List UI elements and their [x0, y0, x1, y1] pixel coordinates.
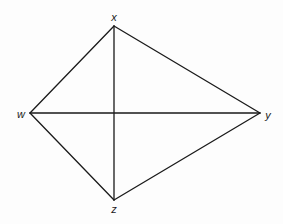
vertex-label-y: y [265, 110, 271, 121]
vertex-label-x: x [111, 12, 117, 23]
side-xy [114, 26, 260, 113]
diagram-canvas: x w y z [0, 0, 283, 224]
vertex-label-w: w [17, 109, 25, 120]
side-zw [30, 113, 114, 200]
vertex-label-z: z [111, 204, 117, 215]
side-wx [30, 26, 114, 113]
kite-figure [0, 0, 283, 224]
side-yz [114, 113, 260, 200]
